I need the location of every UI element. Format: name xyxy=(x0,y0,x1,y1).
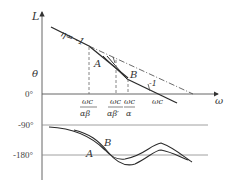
svg-text:ωc: ωc xyxy=(124,97,136,106)
minus-180-label: -180° xyxy=(13,150,33,160)
segment-ab2 xyxy=(107,56,127,79)
tick-omega-c: ωc xyxy=(152,97,164,106)
y-axis-label: L xyxy=(31,10,39,23)
bode-diagram: L η= -1 θ 0° A B -1 ω ωc αβ ωc αβ′ ωc α … xyxy=(0,0,232,183)
svg-text:α: α xyxy=(126,109,132,118)
phase-a-label: A xyxy=(85,148,93,159)
phase-curve-b xyxy=(49,127,192,162)
svg-text:αβ: αβ xyxy=(80,109,90,118)
tick-omega-c-over-alpha-beta: ωc αβ xyxy=(80,97,97,118)
extension-line xyxy=(89,46,193,94)
zero-degree-label: 0° xyxy=(25,89,34,99)
point-b-label: B xyxy=(129,69,137,80)
slope-label-tail: -1 xyxy=(149,79,157,88)
tick-omega-c-over-alpha: ωc α xyxy=(124,97,136,118)
minus-90-label: -90° xyxy=(18,120,34,130)
theta-label: θ xyxy=(32,68,38,79)
tick-omega-c-over-alpha-beta-prime: ωc αβ′ xyxy=(107,97,123,118)
omega-axis-label: ω xyxy=(215,95,223,106)
point-a-label: A xyxy=(93,58,101,69)
svg-text:αβ′: αβ′ xyxy=(107,109,119,118)
svg-text:ωc: ωc xyxy=(82,97,94,106)
svg-text:ωc: ωc xyxy=(110,97,122,106)
slope-label-main: η= -1 xyxy=(59,29,86,47)
phase-b-label: B xyxy=(103,137,111,148)
bode-diagram-svg: L η= -1 θ 0° A B -1 ω ωc αβ ωc αβ′ ωc α … xyxy=(0,0,232,183)
